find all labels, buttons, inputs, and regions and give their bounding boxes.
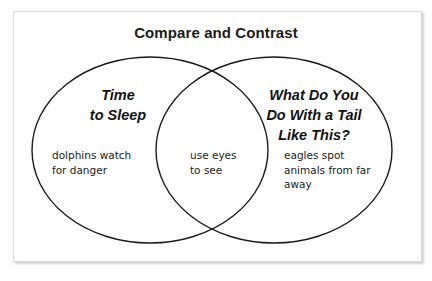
- left-text-line: dolphins watch: [52, 148, 131, 163]
- right-text-line: animals from far: [284, 163, 371, 178]
- right-text-line: away: [284, 177, 371, 192]
- right-heading-line: Like This?: [253, 125, 375, 145]
- right-circle-heading: What Do You Do With a Tail Like This?: [253, 85, 375, 145]
- overlap-text-line: to see: [190, 163, 237, 178]
- left-text-line: for danger: [52, 163, 131, 178]
- left-circle-text: dolphins watch for danger: [52, 148, 131, 177]
- overlap-text-line: use eyes: [190, 148, 237, 163]
- right-heading-line: What Do You: [253, 85, 375, 105]
- left-heading-line: Time: [68, 85, 168, 105]
- overlap-text: use eyes to see: [190, 148, 237, 177]
- right-circle-text: eagles spot animals from far away: [284, 148, 371, 192]
- right-heading-line: Do With a Tail: [253, 105, 375, 125]
- left-heading-line: to Sleep: [68, 105, 168, 125]
- right-text-line: eagles spot: [284, 148, 371, 163]
- left-circle-heading: Time to Sleep: [68, 85, 168, 125]
